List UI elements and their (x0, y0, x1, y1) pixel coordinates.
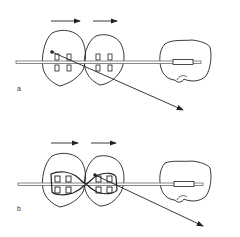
panel-a (16, 21, 211, 110)
incisor-1 (42, 153, 85, 207)
panel-label-b: b (17, 205, 21, 212)
molar-tube (173, 60, 193, 65)
panel-label-a: a (17, 85, 21, 92)
incisor-1 (42, 30, 85, 86)
incisor-2 (84, 35, 124, 85)
orthodontic-diagram (0, 0, 240, 237)
molar-tube (174, 182, 194, 187)
panel-b (18, 143, 211, 226)
